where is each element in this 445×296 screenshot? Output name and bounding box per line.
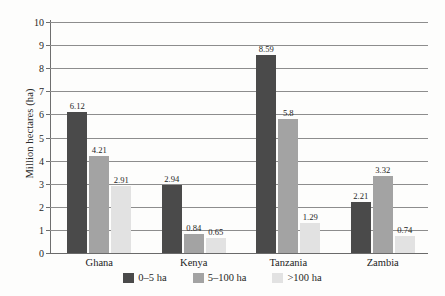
category-label: Tanzania xyxy=(269,257,307,268)
category-label: Kenya xyxy=(180,257,207,268)
legend-swatch xyxy=(272,273,283,283)
bar-group: 2.940.840.65Kenya xyxy=(162,22,226,253)
bar-rect[interactable] xyxy=(256,55,276,253)
legend-item[interactable]: 0–5 ha xyxy=(123,272,166,283)
y-tick-label: 1 xyxy=(39,224,44,235)
bar[interactable]: 3.32 xyxy=(373,22,393,253)
y-tick-label: 4 xyxy=(39,155,44,166)
chart-legend: 0–5 ha5–100 ha>100 ha xyxy=(0,272,445,283)
bar[interactable]: 4.21 xyxy=(89,22,109,253)
legend-swatch xyxy=(123,273,134,283)
y-tick-mark xyxy=(46,91,50,92)
bar[interactable]: 1.29 xyxy=(300,22,320,253)
bar-value-label: 2.94 xyxy=(164,174,179,184)
y-tick-mark xyxy=(46,184,50,185)
bar[interactable]: 0.65 xyxy=(206,22,226,253)
bar[interactable]: 6.12 xyxy=(67,22,87,253)
plot-area: 012345678910 6.124.212.91Ghana2.940.840.… xyxy=(50,22,428,253)
y-tick-label: 3 xyxy=(39,178,44,189)
bar-rect[interactable] xyxy=(395,236,415,253)
bar-value-label: 3.32 xyxy=(375,165,390,175)
y-tick-mark xyxy=(46,22,50,23)
y-tick-mark xyxy=(46,230,50,231)
y-tick-mark xyxy=(46,138,50,139)
y-tick-mark xyxy=(46,207,50,208)
bar-group: 2.213.320.74Zambia xyxy=(351,22,415,253)
bar-chart-figure: Million hectares (ha) 012345678910 6.124… xyxy=(0,0,445,296)
category-label: Ghana xyxy=(86,257,113,268)
bar-value-label: 6.12 xyxy=(70,101,85,111)
bar-value-label: 8.59 xyxy=(259,44,274,54)
bar-rect[interactable] xyxy=(300,223,320,253)
y-tick-label: 8 xyxy=(39,63,44,74)
legend-label: 5–100 ha xyxy=(208,272,247,283)
legend-label: >100 ha xyxy=(287,272,321,283)
legend-item[interactable]: 5–100 ha xyxy=(193,272,247,283)
bar-group: 8.595.81.29Tanzania xyxy=(256,22,320,253)
bar[interactable]: 8.59 xyxy=(256,22,276,253)
bar[interactable]: 2.21 xyxy=(351,22,371,253)
y-tick-mark xyxy=(46,114,50,115)
bar-value-label: 1.29 xyxy=(303,212,318,222)
bar-rect[interactable] xyxy=(67,112,87,253)
y-tick-label: 6 xyxy=(39,109,44,120)
bar-rect[interactable] xyxy=(89,156,109,253)
y-tick-label: 7 xyxy=(39,86,44,97)
bar-rect[interactable] xyxy=(351,202,371,253)
bar-value-label: 2.91 xyxy=(114,175,129,185)
bar-value-label: 4.21 xyxy=(92,145,107,155)
gridline xyxy=(50,253,428,254)
legend-item[interactable]: >100 ha xyxy=(272,272,321,283)
y-tick-label: 9 xyxy=(39,40,44,51)
bar-group: 6.124.212.91Ghana xyxy=(67,22,131,253)
y-axis-title: Million hectares (ha) xyxy=(24,29,35,239)
y-tick-label: 0 xyxy=(39,248,44,259)
bar-rect[interactable] xyxy=(278,119,298,253)
bar[interactable]: 5.8 xyxy=(278,22,298,253)
bar-rect[interactable] xyxy=(162,185,182,253)
y-tick-label: 5 xyxy=(39,132,44,143)
bar-rect[interactable] xyxy=(184,234,204,253)
bar-value-label: 0.65 xyxy=(208,227,223,237)
y-tick-mark xyxy=(46,161,50,162)
bar-value-label: 2.21 xyxy=(353,191,368,201)
legend-label: 0–5 ha xyxy=(138,272,166,283)
bar-value-label: 0.74 xyxy=(397,225,412,235)
y-tick-label: 2 xyxy=(39,201,44,212)
legend-swatch xyxy=(193,273,204,283)
bar[interactable]: 2.91 xyxy=(111,22,131,253)
bar[interactable]: 0.84 xyxy=(184,22,204,253)
bar[interactable]: 2.94 xyxy=(162,22,182,253)
bar-rect[interactable] xyxy=(373,176,393,253)
bar[interactable]: 0.74 xyxy=(395,22,415,253)
bar-value-label: 0.84 xyxy=(186,223,201,233)
y-tick-label: 10 xyxy=(34,17,44,28)
bar-value-label: 5.8 xyxy=(283,108,294,118)
y-tick-mark xyxy=(46,253,50,254)
y-tick-mark xyxy=(46,45,50,46)
category-label: Zambia xyxy=(367,257,399,268)
bar-rect[interactable] xyxy=(111,186,131,253)
y-tick-mark xyxy=(46,68,50,69)
bar-rect[interactable] xyxy=(206,238,226,253)
